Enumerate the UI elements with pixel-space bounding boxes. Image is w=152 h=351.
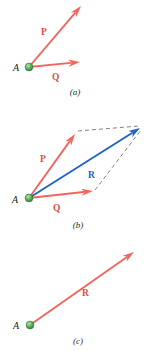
- dashed-q-to-r: [95, 130, 141, 190]
- panel-a-vector-q-shaft: [29, 63, 71, 67]
- panel-b-vector-p-shaft: [29, 142, 69, 198]
- panel-a-label-p: P: [41, 27, 47, 37]
- panel-b-vector-p-head: [65, 134, 75, 145]
- svg-layer: APQ(a)APQR(b)AR(c): [11, 6, 141, 346]
- dashed-p-to-r: [78, 126, 139, 131]
- panel-b-origin-label: A: [11, 194, 19, 205]
- panel-a-origin-label: A: [12, 62, 20, 73]
- panel-a-vector-p-shaft: [29, 13, 75, 67]
- figure-canvas: APQ(a)APQR(b)AR(c): [0, 0, 152, 351]
- panel-c-caption: (c): [73, 336, 83, 346]
- panel-a-vector-p: [29, 6, 81, 67]
- panel-b: APQR(b): [11, 126, 141, 230]
- panel-b-label-q: Q: [53, 203, 60, 213]
- panel-c-origin-label: A: [12, 320, 20, 331]
- panel-c-vector-r-shaft: [30, 257, 126, 325]
- panel-c-origin-dot: [26, 321, 34, 329]
- panel-a-caption: (a): [70, 87, 81, 97]
- panel-a: APQ(a): [12, 6, 81, 97]
- panel-b-vector-q: [29, 189, 93, 198]
- panel-b-vector-p: [29, 134, 75, 198]
- panel-b-vector-r-shaft: [29, 133, 132, 198]
- panel-b-origin-dot: [25, 194, 33, 202]
- panel-a-label-q: Q: [52, 72, 59, 82]
- panel-c-label-r: R: [82, 288, 89, 298]
- panel-b-label-r: R: [88, 170, 95, 180]
- vector-addition-figure: APQ(a)APQR(b)AR(c) (a) A P Q (b) A P Q R…: [0, 0, 152, 351]
- panel-b-label-p: P: [40, 154, 46, 164]
- panel-b-vector-r-head: [128, 128, 140, 137]
- panel-a-vector-q: [29, 60, 80, 67]
- panel-a-origin-dot: [25, 63, 33, 71]
- panel-c: AR(c): [12, 252, 134, 346]
- panel-c-vector-r-head: [123, 252, 134, 262]
- panel-b-caption: (b): [73, 220, 84, 230]
